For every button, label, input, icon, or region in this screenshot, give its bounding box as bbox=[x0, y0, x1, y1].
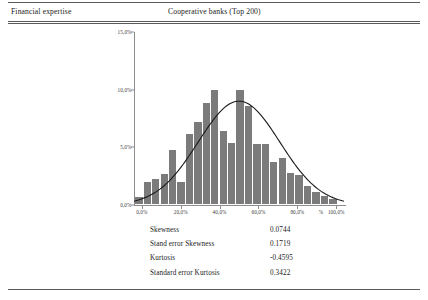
statistics-table: Skewness0.0744Stand error Skewness0.1719… bbox=[150, 226, 320, 283]
plot-area: 0,0%5,0%10,0%15,0% 0,0%20,0%40,0%60,0%80… bbox=[134, 32, 344, 204]
statistic-label: Standard error Kurtosis bbox=[150, 269, 220, 277]
x-tick-mark bbox=[220, 205, 221, 209]
statistics-row: Kurtosis-0.4595 bbox=[150, 254, 320, 268]
x-tick-label: 80,0% bbox=[290, 209, 304, 215]
statistic-label: Kurtosis bbox=[150, 254, 175, 262]
x-tick-mark bbox=[258, 205, 259, 209]
normal-curve-overlay bbox=[134, 32, 344, 205]
statistic-value: 0.0744 bbox=[270, 226, 290, 234]
statistic-label: Skewness bbox=[150, 226, 179, 234]
statistic-value: 0.1719 bbox=[270, 240, 290, 248]
statistics-row: Standard error Kurtosis0.3422 bbox=[150, 269, 320, 283]
bottom-rule bbox=[8, 289, 420, 290]
statistics-row: Stand error Skewness0.1719 bbox=[150, 240, 320, 254]
header-rule-upper bbox=[8, 21, 420, 22]
document-page: Financial expertise Cooperative banks (T… bbox=[0, 0, 428, 300]
x-tick-mark bbox=[142, 205, 143, 209]
x-axis bbox=[134, 205, 346, 206]
header-center-title: Cooperative banks (Top 200) bbox=[168, 7, 261, 16]
statistic-label: Stand error Skewness bbox=[150, 240, 214, 248]
x-tick-mark bbox=[297, 205, 298, 209]
y-tick-label: 15,0% bbox=[118, 29, 132, 35]
histogram-chart: 0,0%5,0%10,0%15,0% 0,0%20,0%40,0%60,0%80… bbox=[104, 28, 350, 210]
x-tick-label: 60,0% bbox=[251, 209, 265, 215]
x-tick-label: 40,0% bbox=[213, 209, 227, 215]
statistic-value: 0.3422 bbox=[270, 269, 290, 277]
top-rule bbox=[8, 2, 420, 3]
y-tick-label: 10,0% bbox=[118, 87, 132, 93]
page-header: Financial expertise Cooperative banks (T… bbox=[0, 7, 428, 21]
statistic-value: -0.4595 bbox=[270, 254, 293, 262]
header-rule-lower bbox=[8, 23, 420, 24]
x-tick-mark bbox=[336, 205, 337, 209]
x-tick-label: 100,0% bbox=[328, 209, 345, 215]
x-tick-label: 0,0% bbox=[136, 209, 147, 215]
x-tick-mark bbox=[181, 205, 182, 209]
statistics-row: Skewness0.0744 bbox=[150, 226, 320, 240]
header-left-title: Financial expertise bbox=[11, 7, 71, 16]
y-tick-label: 0,0% bbox=[120, 202, 131, 208]
x-axis-unit-label: % bbox=[319, 209, 323, 215]
y-tick-label: 5,0% bbox=[120, 144, 131, 150]
x-tick-label: 20,0% bbox=[174, 209, 188, 215]
